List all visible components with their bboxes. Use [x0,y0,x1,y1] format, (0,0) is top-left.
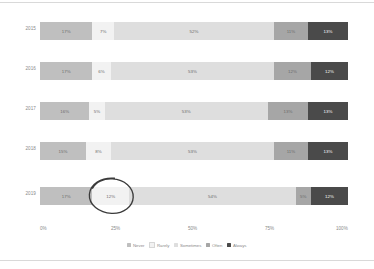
x-axis: 0%25%50%75%100% [40,226,348,236]
bar-segment-never[interactable]: 15% [40,142,86,160]
segment-value-label: 12% [106,194,115,199]
segment-value-label: 17% [62,194,71,199]
segment-value-label: 6% [98,69,104,74]
segment-value-label: 17% [62,69,71,74]
legend-item[interactable]: Often [206,243,222,248]
legend-label: Often [212,243,223,248]
bar-segment-often[interactable]: 12% [274,62,311,80]
segment-value-label: 17% [62,29,71,34]
bar-segment-sometimes[interactable]: 52% [114,22,274,40]
legend-swatch-icon [174,243,178,247]
segment-value-label: 13% [283,109,292,114]
segment-value-label: 16% [60,109,69,114]
legend-item[interactable]: Always [227,243,246,248]
legend-label: Never [133,243,144,248]
bar-segment-always[interactable]: 12% [311,62,348,80]
bar-segment-sometimes[interactable]: 54% [129,187,295,205]
bar-segment-always[interactable]: 13% [308,142,348,160]
chart-slide: 201517%7%52%11%13%201617%6%53%12%12%2017… [0,0,374,269]
bar-segment-rarely[interactable]: 7% [92,22,114,40]
bar-segment-rarely[interactable]: 6% [92,62,110,80]
chart-legend: NeverRarelySometimesOftenAlways [0,242,374,248]
stacked-bar[interactable]: 17%6%53%12%12% [40,62,348,80]
bar-segment-always[interactable]: 12% [311,187,348,205]
segment-value-label: 11% [287,29,296,34]
segment-value-label: 5% [300,194,306,199]
segment-value-label: 12% [288,69,297,74]
segment-value-label: 13% [323,29,332,34]
x-axis-tick-label: 100% [336,226,348,232]
legend-item[interactable]: Rarely [149,242,169,248]
bar-segment-often[interactable]: 5% [296,187,311,205]
segment-value-label: 5% [94,109,100,114]
segment-value-label: 53% [188,69,197,74]
bar-segment-rarely[interactable]: 12% [92,187,129,205]
segment-value-label: 7% [100,29,106,34]
segment-value-label: 8% [95,149,101,154]
segment-value-label: 54% [208,194,217,199]
bar-segment-often[interactable]: 13% [268,102,308,120]
bar-row: 201917%12%54%5%12% [0,187,374,205]
segment-value-label: 12% [325,194,334,199]
segment-value-label: 15% [59,149,68,154]
bar-segment-sometimes[interactable]: 53% [105,102,268,120]
bar-row: 201617%6%53%12%12% [0,62,374,80]
row-category-label: 2019 [10,191,36,197]
stacked-bar[interactable]: 17%7%52%11%13% [40,22,348,40]
bar-segment-rarely[interactable]: 5% [89,102,104,120]
stacked-bar[interactable]: 17%12%54%5%12% [40,187,348,205]
x-axis-tick-label: 0% [40,226,47,232]
x-axis-tick-label: 75% [265,226,274,232]
legend-swatch-icon [149,242,155,248]
stacked-bar[interactable]: 15%8%53%11%13% [40,142,348,160]
row-category-label: 2015 [10,26,36,32]
legend-item[interactable]: Sometimes [174,243,201,248]
x-axis-tick-label: 50% [188,226,197,232]
segment-value-label: 12% [325,69,334,74]
segment-value-label: 52% [190,29,199,34]
bar-segment-often[interactable]: 11% [274,22,308,40]
segment-value-label: 53% [182,109,191,114]
bar-segment-never[interactable]: 17% [40,62,92,80]
segment-value-label: 53% [188,149,197,154]
legend-swatch-icon [206,243,210,247]
x-axis-tick-label: 25% [111,226,120,232]
segment-value-label: 13% [323,109,332,114]
bar-row: 201815%8%53%11%13% [0,142,374,160]
bar-segment-always[interactable]: 13% [308,22,348,40]
row-category-label: 2016 [10,66,36,72]
legend-item[interactable]: Never [127,243,144,248]
legend-label: Rarely [157,243,169,248]
row-category-label: 2018 [10,146,36,152]
legend-label: Always [233,243,247,248]
segment-value-label: 13% [323,149,332,154]
segment-value-label: 11% [287,149,296,154]
bar-segment-rarely[interactable]: 8% [86,142,111,160]
legend-swatch-icon [127,243,131,247]
legend-label: Sometimes [180,243,202,248]
bar-segment-often[interactable]: 11% [274,142,308,160]
bar-segment-never[interactable]: 17% [40,187,92,205]
bar-row: 201517%7%52%11%13% [0,22,374,40]
bar-segment-never[interactable]: 16% [40,102,89,120]
row-category-label: 2017 [10,106,36,112]
bar-segment-always[interactable]: 13% [308,102,348,120]
stacked-bar[interactable]: 16%5%53%13%13% [40,102,348,120]
bar-segment-sometimes[interactable]: 53% [111,142,274,160]
bar-row: 201716%5%53%13%13% [0,102,374,120]
bar-segment-never[interactable]: 17% [40,22,92,40]
bar-segment-sometimes[interactable]: 53% [111,62,274,80]
legend-swatch-icon [227,243,231,247]
